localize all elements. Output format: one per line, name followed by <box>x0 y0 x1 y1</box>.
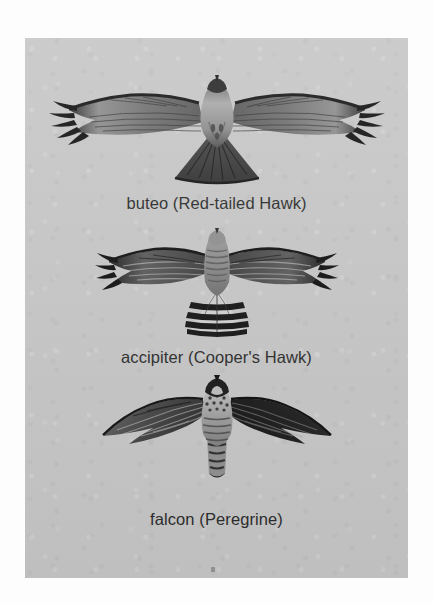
specimen-falcon: falcon (Peregrine) <box>25 374 408 528</box>
hawk-soaring-icon <box>95 228 339 340</box>
illustration-plate: buteo (Red-tailed Hawk) <box>25 38 408 578</box>
specimen-buteo: buteo (Red-tailed Hawk) <box>25 70 408 212</box>
caption-buteo: buteo (Red-tailed Hawk) <box>25 195 408 212</box>
hawk-soaring-icon <box>47 70 387 188</box>
caption-falcon: falcon (Peregrine) <box>25 511 408 528</box>
caption-accipiter: accipiter (Cooper's Hawk) <box>25 349 408 366</box>
specimen-accipiter: accipiter (Cooper's Hawk) <box>25 228 408 366</box>
scan-speck <box>211 567 215 572</box>
falcon-soaring-icon <box>95 374 339 494</box>
figure-root: buteo (Red-tailed Hawk) <box>0 0 433 605</box>
